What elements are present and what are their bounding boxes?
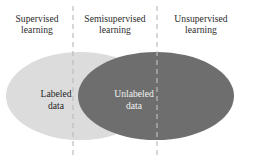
column-header-supervised-line1: Supervised — [15, 13, 58, 24]
column-header-unsupervised: Unsupervised learning — [160, 13, 242, 36]
region-label-labeled-data-line2: data — [48, 100, 64, 111]
region-label-unlabeled-data-line1: Unlabeled — [114, 88, 153, 99]
column-header-unsupervised-line2: learning — [185, 24, 217, 35]
region-label-unlabeled-data: Unlabeled data — [104, 88, 164, 111]
region-label-labeled-data-line1: Labeled — [41, 88, 72, 99]
column-header-supervised: Supervised learning — [4, 13, 70, 36]
figure-container: Supervised learning Semisupervised learn… — [0, 0, 254, 162]
column-header-unsupervised-line1: Unsupervised — [174, 13, 227, 24]
column-header-semisupervised-line2: learning — [99, 24, 131, 35]
column-header-supervised-line2: learning — [21, 24, 53, 35]
column-header-semisupervised: Semisupervised learning — [76, 13, 154, 36]
region-label-unlabeled-data-line2: data — [126, 100, 142, 111]
region-label-labeled-data: Labeled data — [28, 88, 84, 111]
column-header-semisupervised-line1: Semisupervised — [84, 13, 145, 24]
